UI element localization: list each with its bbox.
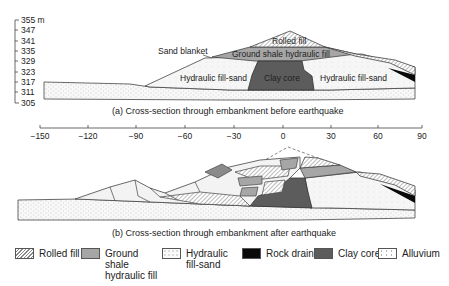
x-tick-neg150: −150: [30, 131, 49, 141]
x-tick-0: 0: [281, 131, 286, 141]
legend-label-clay-core: Clay core: [338, 248, 380, 259]
y-tick-317: 317: [21, 77, 35, 87]
y-tick-305: 305: [21, 98, 35, 108]
legend-item-hydraulic-fill-sand: Hydraulic fill-sand: [162, 248, 242, 270]
legend-label-hydraulic-fill-sand: Hydraulic fill-sand: [186, 248, 242, 270]
y-tick-355: 355 m: [21, 15, 45, 25]
legend-label-alluvium: Alluvium: [402, 248, 440, 259]
slumped-shale-block-2-b: [238, 176, 262, 186]
legend-item-clay-core: Clay core: [314, 248, 380, 259]
y-tick-311: 311: [21, 87, 35, 97]
x-tick-30: 30: [326, 131, 336, 141]
slumped-shale-block-3-b: [240, 187, 258, 196]
x-tick-neg30: −30: [227, 131, 242, 141]
dam-cross-section-diagram: 355 m 347 341 335 329 323 317 311 305 Ro…: [0, 0, 449, 286]
legend-label-rolled-fill: Rolled fill: [39, 248, 80, 259]
clay-core-swatch-icon: [314, 248, 333, 259]
slumped-shale-block-4-b: [280, 158, 298, 170]
label-rolled-fill: Rolled fill: [272, 36, 307, 46]
label-hydraulic-fill-sand-left: Hydraulic fill-sand: [180, 73, 247, 83]
x-tick-neg120: −120: [78, 131, 97, 141]
x-tick-neg60: −60: [178, 131, 193, 141]
label-ground-shale: Ground shale hydraulic fill: [232, 49, 330, 59]
alluvium-swatch-icon: [378, 248, 397, 259]
x-tick-neg90: −90: [129, 131, 144, 141]
legend-label-rock-drain: Rock drain: [266, 248, 314, 259]
x-tick-90: 90: [417, 131, 427, 141]
y-tick-323: 323: [21, 67, 35, 77]
x-tick-60: 60: [373, 131, 383, 141]
legend: Rolled fill Ground shale hydraulic fill …: [0, 248, 449, 278]
legend-item-rock-drain: Rock drain: [242, 248, 314, 259]
ground-shale-swatch-icon: [81, 248, 100, 259]
y-tick-347: 347: [21, 25, 35, 35]
label-hydraulic-fill-sand-right: Hydraulic fill-sand: [320, 73, 387, 83]
y-tick-341: 341: [21, 36, 35, 46]
x-axis: −150 −120 −90 −60 −30 0 30 60 90: [30, 125, 427, 141]
section-b: (b) Cross-section through embankment aft…: [18, 147, 415, 238]
section-a: 355 m 347 341 335 329 323 317 311 305 Ro…: [15, 15, 415, 116]
label-sand-blanket: Sand blanket: [158, 46, 208, 56]
caption-section-a: (a) Cross-section through embankment bef…: [112, 106, 344, 116]
legend-item-alluvium: Alluvium: [378, 248, 440, 259]
legend-item-rolled-fill: Rolled fill: [15, 248, 80, 259]
label-clay-core: Clay core: [264, 73, 300, 83]
y-tick-329: 329: [21, 56, 35, 66]
legend-item-ground-shale: Ground shale hydraulic fill: [81, 248, 161, 281]
legend-label-ground-shale: Ground shale hydraulic fill: [105, 248, 161, 281]
rolled-fill-swatch-icon: [15, 248, 34, 259]
hydraulic-fill-sand-swatch-icon: [162, 248, 181, 259]
caption-section-b: (b) Cross-section through embankment aft…: [112, 228, 336, 238]
y-axis: [15, 20, 19, 103]
y-tick-335: 335: [21, 46, 35, 56]
rock-drain-swatch-icon: [242, 248, 261, 259]
